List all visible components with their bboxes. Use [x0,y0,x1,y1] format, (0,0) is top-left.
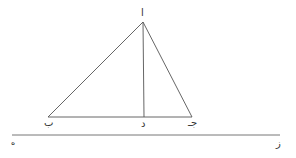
geometry-diagram [0,0,296,158]
segment-alif-jim [143,22,192,117]
label-alif: ا [141,8,144,18]
label-zay: ز [276,139,281,149]
segment-alif-ba [48,22,143,117]
label-ba: ب [44,118,53,128]
altitude-alif-dal [143,22,144,117]
label-ha: ه [11,139,15,147]
label-dal: د [141,119,145,129]
label-jim: جـ [188,118,197,128]
